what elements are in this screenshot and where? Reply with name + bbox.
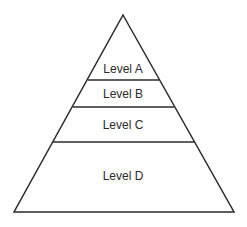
level-b-label: Level B (103, 87, 143, 101)
pyramid-diagram: Level A Level B Level C Level D (0, 0, 247, 227)
level-d-label: Level D (103, 169, 144, 183)
level-a-label: Level A (103, 62, 142, 76)
level-c-label: Level C (103, 118, 144, 132)
